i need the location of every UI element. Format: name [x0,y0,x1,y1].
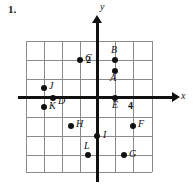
grid-line-horizontal-7 [26,172,152,173]
problem-number: 1. [8,3,16,15]
data-point-label-g: G [129,149,136,159]
grid-line-vertical-7 [152,41,153,172]
grid-line-horizontal-4 [26,117,152,118]
data-point-label-a: A [110,73,116,83]
data-point-g [121,152,127,158]
grid-line-horizontal-0 [26,41,152,42]
x-axis-label: x [181,90,185,101]
data-point-k [41,104,47,110]
data-point-label-h: H [76,119,83,129]
data-point-b [112,57,118,63]
y-axis-arrow-icon [92,15,102,23]
y-axis [96,22,99,182]
data-point-f [130,123,136,129]
data-point-label-e: E [112,100,118,110]
data-point-l [85,152,91,158]
data-point-i [94,133,100,139]
data-point-label-k: K [49,101,56,111]
data-point-j [41,85,47,91]
data-point-label-d: D [58,96,65,106]
grid-line-horizontal-5 [26,136,152,137]
x-axis-tick-label-4: 4 [128,100,133,111]
data-point-label-i: I [103,130,106,140]
coordinate-plane-figure: 1. x y 2 4 ABCDEFGHIJKL [0,0,194,188]
data-point-label-f: F [138,119,144,129]
data-point-label-l: L [84,141,90,151]
x-axis-arrow-icon [172,92,180,102]
grid-line-horizontal-2 [26,79,152,80]
y-axis-label: y [100,1,104,12]
data-point-label-c: C [85,53,92,63]
data-point-c [77,57,83,63]
data-point-label-b: B [111,45,117,55]
data-point-h [68,123,74,129]
data-point-label-j: J [49,81,53,91]
